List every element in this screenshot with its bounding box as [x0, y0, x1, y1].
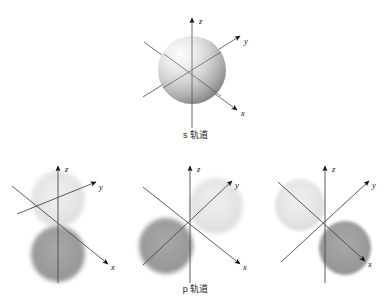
py-axis-label-z: z	[196, 164, 201, 174]
px-axis-label-z: z	[331, 164, 336, 174]
px-axis-label-x: x	[367, 259, 372, 269]
py-axis-label-y: y	[234, 180, 239, 190]
pz-axis-label-y: y	[98, 182, 103, 192]
pz-axis-label-z: z	[64, 164, 69, 174]
s-orbital-diagram: z y x	[143, 16, 248, 128]
p-orbital-caption: p 轨道	[0, 285, 391, 294]
py-lobe-negative	[139, 218, 193, 274]
py-axis-label-x: x	[242, 262, 247, 272]
s-axis-label-x: x	[240, 108, 245, 118]
px-lobe-negative	[275, 179, 325, 231]
orbital-figure: z y x z y x z y x	[0, 0, 391, 305]
s-axis-label-z: z	[198, 16, 203, 26]
px-orbital-diagram: z y x	[275, 164, 376, 283]
s-orbital-caption: s 轨道	[0, 131, 391, 140]
s-axis-label-y: y	[243, 36, 248, 46]
pz-orbital-diagram: z y x	[12, 164, 115, 283]
py-orbital-diagram: z y x	[139, 164, 247, 283]
pz-axis-label-x: x	[110, 262, 115, 272]
px-axis-label-y: y	[371, 180, 376, 190]
px-lobe-positive	[319, 221, 371, 275]
